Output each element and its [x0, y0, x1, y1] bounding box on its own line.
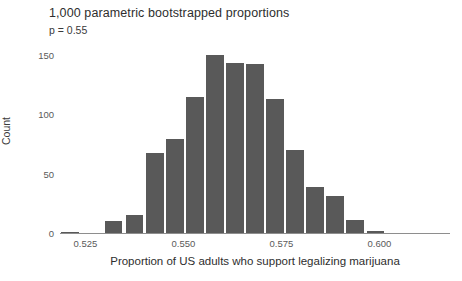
- histogram-bar: [166, 139, 184, 233]
- histogram-bar: [186, 97, 204, 233]
- y-axis-tick-labels: 050100150: [0, 0, 54, 281]
- histogram-bar: [266, 99, 284, 233]
- histogram-bar: [146, 153, 164, 233]
- y-tick-label: 150: [38, 49, 54, 60]
- histogram-bar: [286, 150, 304, 233]
- x-tick-label: 0.550: [172, 238, 196, 249]
- histogram-bar: [126, 215, 144, 233]
- histogram-chart: 1,000 parametric bootstrapped proportion…: [0, 0, 462, 281]
- histogram-bar: [246, 64, 264, 233]
- histogram-bar: [326, 196, 344, 233]
- plot-area: [60, 45, 450, 233]
- y-tick-label: 100: [38, 109, 54, 120]
- x-tick-label: 0.575: [270, 238, 294, 249]
- x-tick-label: 0.525: [74, 238, 98, 249]
- y-tick-label: 50: [43, 168, 54, 179]
- y-tick-label: 0: [49, 228, 54, 239]
- histogram-bar: [346, 220, 364, 233]
- x-tick-label: 0.600: [368, 238, 392, 249]
- histogram-bar: [226, 63, 244, 233]
- chart-title: 1,000 parametric bootstrapped proportion…: [49, 6, 289, 20]
- histogram-bar: [105, 221, 123, 233]
- histogram-bar: [306, 187, 324, 233]
- x-axis-title: Proportion of US adults who support lega…: [110, 255, 400, 267]
- histogram-bar: [206, 55, 224, 233]
- x-axis-line: [60, 233, 450, 234]
- chart-subtitle: p = 0.55: [49, 24, 87, 36]
